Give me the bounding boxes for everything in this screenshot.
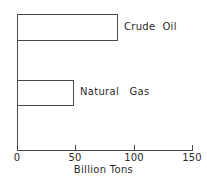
x-tick-label-150: 150: [175, 152, 207, 163]
x-axis-line: [17, 150, 193, 151]
bar-label-natural-gas: Natural Gas: [80, 86, 149, 97]
x-tick-label-100: 100: [117, 152, 151, 163]
x-tick-label-0: 0: [0, 152, 34, 163]
plot-area: 0 50 100 150 Crude Oil Natural Gas: [0, 0, 207, 180]
x-tick-150: [192, 145, 193, 150]
x-tick-100: [134, 145, 135, 150]
bar-label-crude-oil: Crude Oil: [124, 21, 177, 32]
bar-crude-oil: [17, 14, 118, 41]
x-axis-title: Billion Tons: [0, 164, 207, 175]
bar-chart: 0 50 100 150 Crude Oil Natural Gas Billi…: [0, 0, 207, 180]
bar-natural-gas: [17, 80, 74, 106]
x-tick-0: [17, 145, 18, 150]
x-tick-label-50: 50: [58, 152, 92, 163]
x-tick-50: [75, 145, 76, 150]
